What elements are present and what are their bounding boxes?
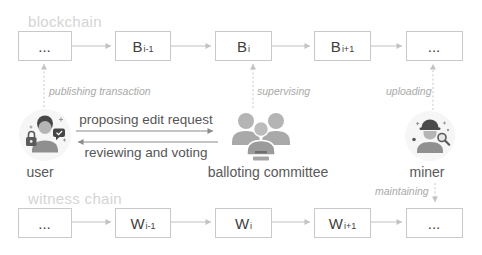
reviewing-and-voting-label: reviewing and voting xyxy=(74,145,218,160)
block-b-ellipsis-right: ... xyxy=(406,31,463,61)
user-icon xyxy=(18,108,72,166)
block-sublabel: i xyxy=(248,45,250,54)
block-b-i: Bi xyxy=(215,31,272,61)
block-w-ellipsis-left: ... xyxy=(18,208,72,238)
block-w-ellipsis-right: ... xyxy=(406,208,463,238)
block-w-i-minus-1: Wi-1 xyxy=(115,208,171,238)
block-b-ellipsis-left: ... xyxy=(18,31,72,61)
block-label: B xyxy=(237,39,247,54)
miner-label: miner xyxy=(399,164,455,180)
proposing-edit-request-label: proposing edit request xyxy=(74,112,218,127)
block-sublabel: i+1 xyxy=(344,222,356,231)
block-label: W xyxy=(235,216,249,231)
block-label: ... xyxy=(428,216,441,231)
block-w-i-plus-1: Wi+1 xyxy=(314,208,371,238)
blockchain-label: blockchain xyxy=(28,13,102,30)
miner-icon xyxy=(404,110,456,166)
block-label: ... xyxy=(38,216,51,231)
block-w-i: Wi xyxy=(215,208,272,238)
block-label: B xyxy=(132,39,142,54)
publishing-transaction-label: publishing transaction xyxy=(49,85,151,97)
block-label: W xyxy=(329,216,343,231)
block-label: ... xyxy=(38,39,51,54)
diagram-canvas: blockchain witness chain ... Bi-1 Bi Bi+… xyxy=(0,0,482,255)
user-label: user xyxy=(12,164,68,180)
block-sublabel: i-1 xyxy=(146,222,156,231)
block-b-i-minus-1: Bi-1 xyxy=(115,31,171,61)
block-sublabel: i-1 xyxy=(144,45,154,54)
balloting-committee-icon xyxy=(230,109,292,171)
supervising-label: supervising xyxy=(257,85,310,97)
block-sublabel: i+1 xyxy=(342,45,354,54)
block-label: ... xyxy=(428,39,441,54)
block-sublabel: i xyxy=(250,222,252,231)
block-label: B xyxy=(331,39,341,54)
witness-chain-label: witness chain xyxy=(28,190,122,207)
balloting-committee-label: balloting committee xyxy=(196,164,340,180)
uploading-label: uploading xyxy=(386,85,432,97)
maintaining-label: maintaining xyxy=(375,185,429,197)
block-b-i-plus-1: Bi+1 xyxy=(314,31,371,61)
block-label: W xyxy=(130,216,144,231)
